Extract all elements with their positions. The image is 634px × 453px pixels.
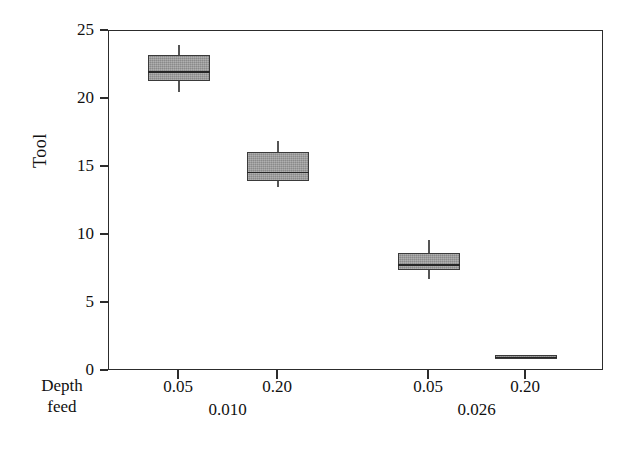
y-tick-label: 20: [52, 89, 94, 106]
median-line: [495, 357, 557, 359]
y-tick-label: 5: [52, 293, 94, 310]
y-tick-mark: [100, 165, 108, 166]
y-tick-mark: [100, 97, 108, 98]
plot-area: [108, 30, 603, 370]
y-tick-label: 10: [52, 225, 94, 242]
whisker-lower: [178, 81, 179, 92]
y-tick-mark: [100, 301, 108, 302]
median-line: [247, 172, 309, 174]
box-rect: [148, 55, 210, 81]
x-tick-label: 0.20: [490, 377, 560, 397]
whisker-lower: [428, 270, 429, 278]
whisker-upper: [277, 141, 278, 152]
row-label-feed: feed: [22, 396, 102, 417]
whisker-upper: [428, 240, 429, 252]
box-rect: [398, 253, 460, 271]
x-group-label: 0.026: [417, 400, 537, 420]
y-axis-title: Tool: [30, 133, 51, 168]
box-rect: [247, 152, 309, 181]
row-label-depth: Depth: [22, 375, 102, 396]
axis-row-labels: Depth feed: [22, 375, 102, 417]
x-tick-label: 0.05: [393, 377, 463, 397]
x-tick-label: 0.05: [143, 377, 213, 397]
x-group-label: 0.010: [168, 400, 288, 420]
x-tick-label: 0.20: [242, 377, 312, 397]
whisker-upper: [178, 45, 179, 56]
y-tick-mark: [100, 369, 108, 370]
median-line: [398, 264, 460, 266]
whisker-lower: [277, 181, 278, 188]
y-tick-mark: [100, 233, 108, 234]
median-line: [148, 71, 210, 73]
y-tick-mark: [100, 29, 108, 30]
chart-root: Tool 0510152025 0.050.200.050.20 Depth f…: [0, 0, 634, 453]
y-tick-label: 15: [52, 157, 94, 174]
y-tick-label: 25: [52, 21, 94, 38]
